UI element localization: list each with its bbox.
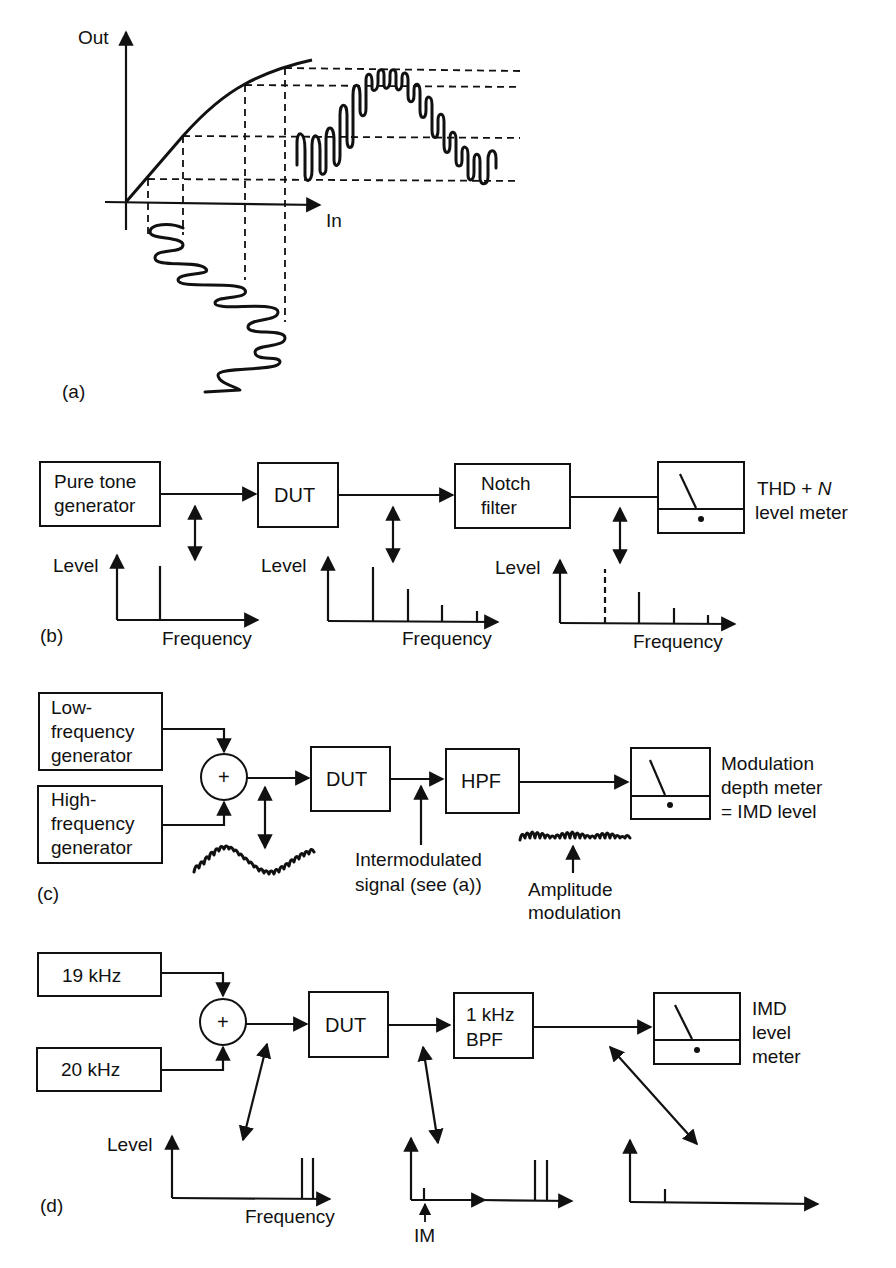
panel-c-smpte-imd: Low- frequency generator High- frequency… <box>37 693 823 923</box>
level-axis-label: Level <box>53 555 98 576</box>
x-axis-arrow-icon <box>105 202 320 205</box>
dut-label: DUT <box>325 1014 366 1036</box>
frequency-axis-label: Frequency <box>245 1206 335 1227</box>
dut-label: DUT <box>326 768 367 790</box>
frequency-axis-label: Frequency <box>402 628 492 649</box>
meter-body <box>654 993 740 1064</box>
dashed-projection <box>245 85 520 87</box>
meter-pivot-icon <box>698 516 704 522</box>
imd-spectrum-plot-3 <box>630 1140 818 1204</box>
panel-d-label: (d) <box>40 1195 63 1216</box>
y-axis-label: Out <box>78 27 109 48</box>
dashed-projection <box>285 68 520 71</box>
probe-arrow-icon <box>243 1044 267 1140</box>
high-gen-label-line1: High- <box>51 789 96 810</box>
frequency-axis-arrow-icon <box>172 1198 330 1199</box>
summer-symbol: + <box>217 1011 229 1033</box>
imd-level-meter <box>654 993 740 1064</box>
imd-meter-label-line3: meter <box>752 1046 801 1067</box>
frequency-axis-label: Frequency <box>633 631 723 652</box>
bpf-label-line1: 1 kHz <box>466 1004 515 1025</box>
bpf-label-line2: BPF <box>466 1029 503 1050</box>
am-label-line2: modulation <box>528 902 621 923</box>
frequency-axis-label: Frequency <box>162 628 252 649</box>
spectrum-plot-1: Level Frequency <box>53 555 258 649</box>
combined-input-wave <box>194 846 314 874</box>
thd-meter-label-line1: THD + N <box>757 478 832 499</box>
signal-arrow-icon <box>162 802 224 825</box>
imd-meter-label-line2: depth meter <box>721 777 823 798</box>
x-axis-label: In <box>326 210 342 231</box>
gen2-label: 20 kHz <box>61 1059 120 1080</box>
imd-meter-label-line1: Modulation <box>721 753 814 774</box>
im-marker-label: IM <box>414 1225 435 1246</box>
imd-meter-label-line3: = IMD level <box>721 801 817 822</box>
notch-label-line1: Notch <box>481 473 531 494</box>
distortion-measurement-diagram: Out In (a) Pure tone generator DUT N <box>0 0 896 1268</box>
hpf-label: HPF <box>461 770 501 792</box>
panel-c-label: (c) <box>37 883 59 904</box>
input-wave <box>150 225 285 392</box>
spectrum-plot-2: Level Frequency <box>261 555 498 649</box>
intermod-label-line2: signal (see (a)) <box>355 874 482 895</box>
meter-body <box>658 462 744 533</box>
notch-label-line2: filter <box>481 497 518 518</box>
meter-pivot-icon <box>694 1047 700 1053</box>
summer-symbol: + <box>218 766 230 788</box>
imd-spectrum-plot-1: Level Frequency <box>107 1134 335 1227</box>
intermod-label-line1: Intermodulated <box>355 849 482 870</box>
imd-spectrum-plot-2: IM <box>411 1138 572 1246</box>
low-gen-label-line3: generator <box>51 745 133 766</box>
thd-meter-label-line2: level meter <box>755 502 849 523</box>
frequency-axis-arrow-icon <box>480 1200 572 1201</box>
probe-arrow-icon <box>423 1047 438 1143</box>
high-gen-label-line2: frequency <box>51 813 135 834</box>
level-axis-label: Level <box>107 1134 152 1155</box>
imd-meter-label-line1: IMD <box>752 998 787 1019</box>
low-gen-label-line2: frequency <box>51 721 135 742</box>
dashed-projection <box>148 179 520 181</box>
level-axis-label: Level <box>261 555 306 576</box>
modulation-depth-meter <box>631 748 710 819</box>
panel-d-ccif-imd: 19 kHz 20 kHz + DUT 1 kHz BPF IMD level … <box>37 953 818 1246</box>
panel-b-thd-measurement: Pure tone generator DUT Notch filter THD… <box>40 462 849 652</box>
am-label-line1: Amplitude <box>528 879 613 900</box>
signal-arrow-icon <box>161 1047 223 1070</box>
level-axis-label: Level <box>495 557 540 578</box>
amplitude-modulation-wave <box>520 832 630 840</box>
imd-meter-label-line2: level <box>752 1022 791 1043</box>
frequency-axis-arrow-icon <box>630 1202 818 1204</box>
low-gen-label-line1: Low- <box>51 697 92 718</box>
panel-b-label: (b) <box>40 625 63 646</box>
frequency-axis-arrow-icon <box>328 621 498 622</box>
generator-label-line2: generator <box>54 495 136 516</box>
panel-a-transfer-curve: Out In (a) <box>62 27 520 402</box>
thd-level-meter <box>658 462 744 533</box>
generator-label-line1: Pure tone <box>54 471 136 492</box>
gen1-label: 19 kHz <box>62 965 121 986</box>
signal-arrow-icon <box>162 729 224 752</box>
meter-body <box>631 748 710 819</box>
panel-a-label: (a) <box>62 381 85 402</box>
dut-label: DUT <box>274 484 315 506</box>
meter-pivot-icon <box>667 802 673 808</box>
signal-arrow-icon <box>161 973 223 996</box>
high-gen-label-line3: generator <box>51 837 133 858</box>
spectrum-plot-3: Level Frequency <box>495 557 735 652</box>
